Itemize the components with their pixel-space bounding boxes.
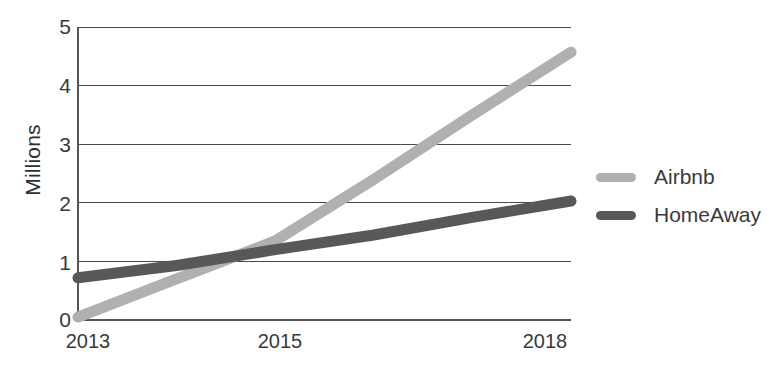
y-tick-label-4: 4 [45,76,71,96]
legend-item-airbnb[interactable]: Airbnb [596,158,778,196]
legend-label-homeaway: HomeAway [654,203,761,227]
gridlines [78,27,571,261]
x-tick-label-2015: 2015 [240,330,320,352]
legend-swatch-homeaway [596,211,636,220]
legend-swatch-airbnb [596,173,636,182]
y-tick-label-2: 2 [45,194,71,214]
x-tick-label-2013: 2013 [48,330,128,352]
series-line-airbnb [78,52,571,317]
legend-item-homeaway[interactable]: HomeAway [596,196,778,234]
data-series [78,52,571,317]
y-tick-label-5: 5 [45,17,71,37]
chart-container: Millions 5 4 3 2 1 0 2013 2015 2018 Airb… [0,0,784,378]
y-tick-label-1: 1 [45,253,71,273]
y-axis-title: Millions [20,60,46,260]
y-tick-label-3: 3 [45,135,71,155]
x-tick-label-2018: 2018 [505,330,585,352]
legend: Airbnb HomeAway [596,158,778,234]
legend-label-airbnb: Airbnb [654,165,715,189]
y-tick-label-0: 0 [45,310,71,330]
axis-lines [78,27,571,320]
